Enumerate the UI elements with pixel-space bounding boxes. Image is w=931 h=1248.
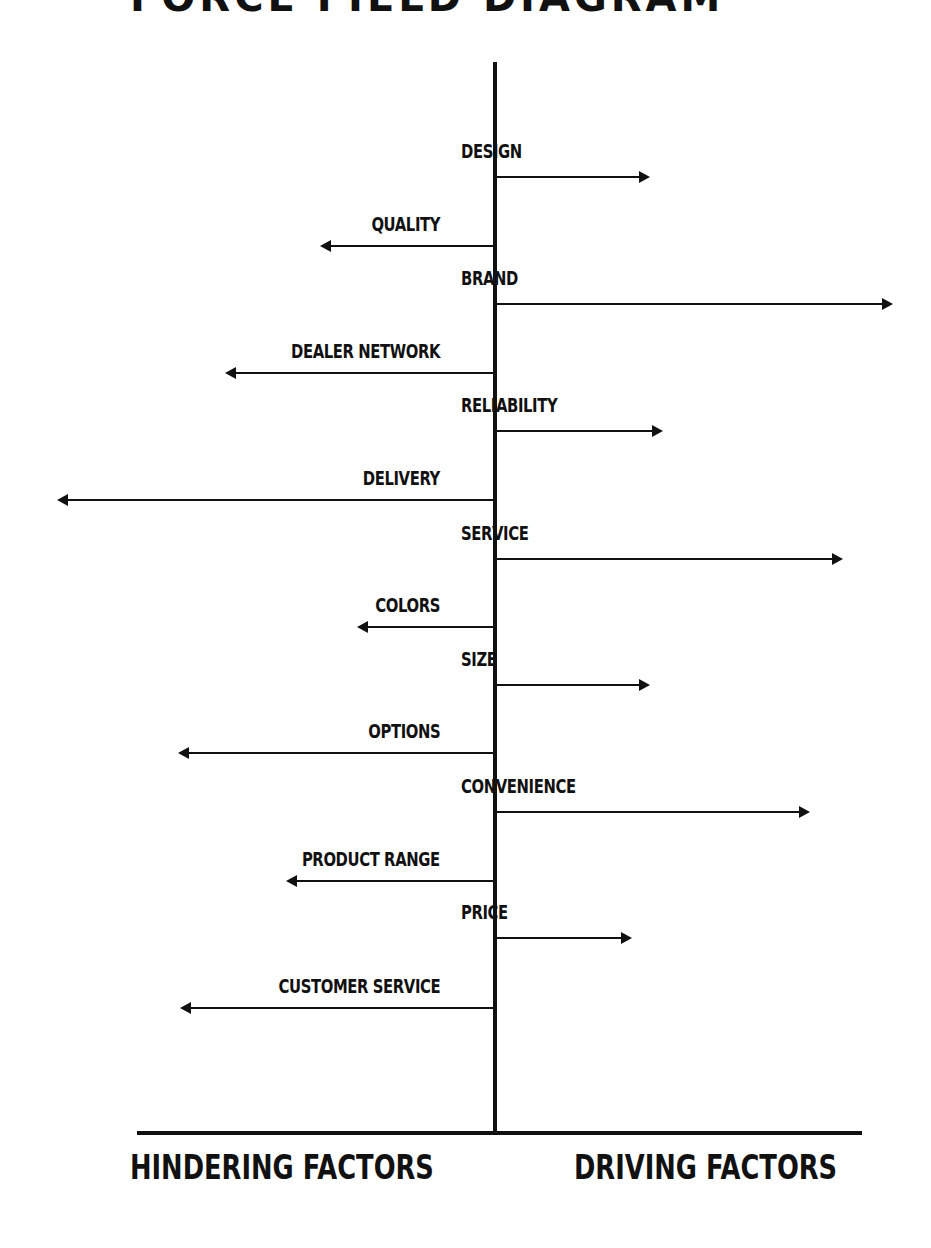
- factor-label-reliability: RELIABILITY: [461, 394, 557, 416]
- force-arrows: [57, 171, 893, 1014]
- factor-label-design: DESIGN: [461, 140, 522, 162]
- arrow-left-icon: [180, 1002, 191, 1014]
- factor-label-delivery: DELIVERY: [363, 467, 440, 489]
- factor-label-convenience: CONVENIENCE: [461, 775, 576, 797]
- factor-label-customer-service: CUSTOMER SERVICE: [278, 975, 440, 997]
- hindering-factors-label: HINDERING FACTORS: [130, 1148, 434, 1187]
- factor-label-size: SIZE: [461, 648, 497, 670]
- arrow-right-icon: [639, 679, 650, 691]
- factor-label-colors: COLORS: [375, 594, 440, 616]
- arrow-right-icon: [639, 171, 650, 183]
- factor-label-service: SERVICE: [461, 522, 528, 544]
- factor-label-options: OPTIONS: [368, 720, 440, 742]
- arrow-right-icon: [652, 425, 663, 437]
- arrow-left-icon: [225, 367, 236, 379]
- arrow-right-icon: [799, 806, 810, 818]
- arrow-left-icon: [357, 621, 368, 633]
- arrow-left-icon: [178, 747, 189, 759]
- factor-label-quality: QUALITY: [371, 213, 440, 235]
- arrow-right-icon: [832, 553, 843, 565]
- arrow-left-icon: [286, 875, 297, 887]
- factor-label-dealer-network: DEALER NETWORK: [291, 340, 440, 362]
- arrow-right-icon: [882, 298, 893, 310]
- factor-label-price: PRICE: [461, 901, 508, 923]
- factor-label-brand: BRAND: [461, 267, 518, 289]
- arrow-left-icon: [57, 494, 68, 506]
- force-field-diagram: [0, 0, 931, 1248]
- driving-factors-label: DRIVING FACTORS: [574, 1148, 837, 1187]
- factor-label-product-range: PRODUCT RANGE: [302, 848, 440, 870]
- arrow-right-icon: [621, 932, 632, 944]
- arrow-left-icon: [320, 240, 331, 252]
